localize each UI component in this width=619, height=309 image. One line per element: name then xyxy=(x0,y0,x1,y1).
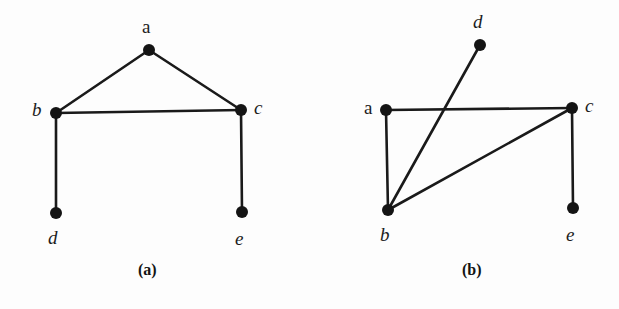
graph-node-b xyxy=(382,204,394,216)
vertex-label-a: a xyxy=(364,98,372,117)
vertex-label-e: e xyxy=(235,229,243,248)
graph-node-a xyxy=(143,44,155,56)
vertex-label-a: a xyxy=(142,17,150,36)
vertex-label-b: b xyxy=(380,225,390,244)
graph-panel-b: dacbe (b) xyxy=(310,0,619,309)
graph-node-c xyxy=(235,104,247,116)
graph-node-d xyxy=(474,39,486,51)
vertex-label-c: c xyxy=(585,96,593,115)
graph-node-b xyxy=(50,107,62,119)
graph-edge-a-c xyxy=(149,50,241,110)
graph-edge-a-b xyxy=(56,50,149,113)
vertex-label-b: b xyxy=(32,100,42,119)
graph-node-e xyxy=(236,206,248,218)
graph-node-d xyxy=(50,207,62,219)
vertex-label-c: c xyxy=(254,98,262,117)
vertex-label-e: e xyxy=(566,225,574,244)
graph-edge-a-b xyxy=(386,110,388,210)
panel-b-caption: (b) xyxy=(462,262,482,278)
vertex-label-d: d xyxy=(48,228,58,247)
graph-edge-a-c xyxy=(386,108,572,110)
graph-panel-a: abcde (a) xyxy=(0,0,310,309)
graph-node-c xyxy=(566,102,578,114)
panel-a-caption: (a) xyxy=(138,262,157,278)
graph-node-a xyxy=(380,104,392,116)
graph-edge-c-e xyxy=(572,108,573,208)
graph-edge-c-e xyxy=(241,110,242,212)
graph-node-e xyxy=(567,202,579,214)
vertex-label-d: d xyxy=(473,12,483,31)
figure-root: abcde (a) dacbe (b) xyxy=(0,0,619,309)
graph-edge-b-c xyxy=(56,110,241,113)
